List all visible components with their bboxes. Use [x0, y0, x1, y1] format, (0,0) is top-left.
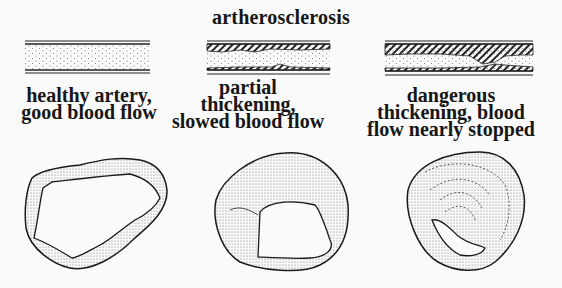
caption-line: slowed blood flow: [168, 113, 328, 130]
caption-line: flow nearly stopped: [340, 121, 562, 138]
partial-vessel-strip: [207, 41, 330, 74]
caption-line: good blood flow: [0, 104, 178, 121]
caption-dangerous: dangerous thickening, blood flow nearly …: [340, 87, 562, 138]
healthy-cross-section: [25, 158, 167, 268]
dangerous-cross-section: [407, 152, 524, 270]
artery-illustrations: [0, 0, 562, 288]
healthy-vessel-strip: [25, 41, 150, 73]
caption-healthy: healthy artery, good blood flow: [0, 87, 178, 121]
caption-partial: partial thickening, slowed blood flow: [168, 79, 328, 130]
dangerous-vessel-strip: [385, 41, 533, 75]
partial-cross-section: [215, 153, 348, 271]
